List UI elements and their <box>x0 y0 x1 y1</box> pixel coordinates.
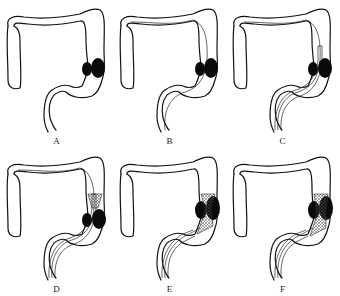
panel-f: F <box>226 148 339 296</box>
panel-a: A <box>0 0 113 148</box>
guidewire <box>244 20 320 130</box>
tumor-small <box>195 62 205 76</box>
panel-label-b: B <box>113 136 226 146</box>
panel-label-d: D <box>0 284 113 294</box>
stent-partial <box>88 194 102 208</box>
colon-drawing-a <box>0 0 113 135</box>
tumor-large <box>92 209 106 229</box>
panel-label-c: C <box>226 136 339 146</box>
guidewire <box>131 20 207 130</box>
stent-procedure-figure: A B C <box>0 0 340 296</box>
colon-drawing-d <box>0 148 113 283</box>
tumor-small <box>82 213 92 227</box>
colon-drawing-e <box>113 148 226 283</box>
colon-drawing-c <box>226 0 339 135</box>
tumor-large <box>204 58 218 78</box>
colon-drawing-b <box>113 0 226 135</box>
panel-e: E <box>113 148 226 296</box>
panel-c: C <box>226 0 339 148</box>
tumor-large <box>91 58 105 78</box>
panel-d: D <box>0 148 113 296</box>
tumor-small <box>82 62 92 76</box>
panel-label-a: A <box>0 136 113 146</box>
tumor-small <box>308 62 318 76</box>
panel-label-e: E <box>113 284 226 294</box>
tumor-large <box>318 58 332 78</box>
panel-b: B <box>113 0 226 148</box>
panel-label-f: F <box>226 284 339 294</box>
colon-drawing-f <box>226 148 339 283</box>
